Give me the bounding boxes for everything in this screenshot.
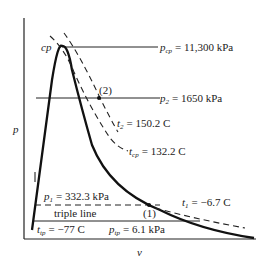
critical-point-label: cp <box>41 41 52 53</box>
x-axis-label: v <box>137 246 142 258</box>
p1-label: p1= 332.3 kPa <box>43 190 109 204</box>
pv-diagram: p v cp pcp= 11,300 kPa (2) p2= 1650 kPa … <box>0 0 272 264</box>
tcp-label: tcp= 132.2 C <box>129 145 185 159</box>
critical-pressure-label: pcp= 11,300 kPa <box>159 41 233 55</box>
state-2-point <box>97 96 101 100</box>
state-1-marker: (1) <box>143 207 156 220</box>
t2-isotherm <box>64 33 118 132</box>
triple-temp-label: ttp= −77 C <box>37 223 85 237</box>
triple-line-label: triple line <box>54 207 97 219</box>
t1-label: t1= −6.7 C <box>182 196 231 210</box>
t2-label: t2= 150.2 C <box>117 117 170 131</box>
p2-label: p2= 1650 kPa <box>159 92 222 106</box>
state-2-marker: (2) <box>99 84 112 97</box>
triple-pressure-label: ptp= 6.1 kPa <box>108 223 165 237</box>
y-axis-label: p <box>12 123 19 135</box>
